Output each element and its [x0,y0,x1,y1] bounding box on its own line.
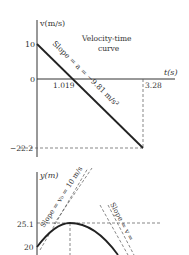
tick-t-zero-crossing: 1.019 [53,81,75,90]
title-line1: Velocity-time [81,34,132,43]
position-curve [37,223,118,255]
v-axis-label: v(m/s) [39,19,65,28]
slope-later-label: Slope = v = [108,201,135,242]
tick-zero: 0 [30,75,35,84]
t-axis-label: t(s) [164,68,178,77]
position-graph: y(m) 25.1 20 Slope = v₀ = 10 m/s Slope =… [17,165,160,255]
velocity-line [37,44,143,148]
title-line2: curve [98,44,120,53]
tick-v-initial: 10 [25,40,35,49]
y-axis-label: y(m) [39,171,58,180]
velocity-graph: v(m/s) t(s) Velocity-time curve 10 0 1.0… [10,19,178,157]
tick-v-final: −22.2 [10,144,33,153]
tick-t-end: 3.28 [145,81,162,90]
tick-y-initial: 20 [24,243,34,252]
kinematics-diagram: v(m/s) t(s) Velocity-time curve 10 0 1.0… [0,0,189,255]
tick-y-max: 25.1 [17,220,34,229]
tangent-initial-dashed [40,168,88,250]
